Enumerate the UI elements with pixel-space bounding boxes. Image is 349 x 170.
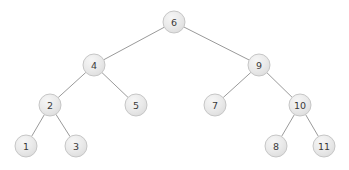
tree-edge <box>306 114 319 136</box>
tree-diagram-canvas: 6492571013811 <box>0 0 349 170</box>
tree-node-circle <box>163 11 185 33</box>
tree-node[interactable]: 1 <box>15 135 37 157</box>
tree-node[interactable]: 10 <box>289 94 311 116</box>
tree-node[interactable]: 4 <box>83 54 105 76</box>
tree-edge <box>58 72 86 97</box>
tree-node[interactable]: 8 <box>265 135 287 157</box>
tree-node[interactable]: 9 <box>248 54 270 76</box>
tree-node[interactable]: 6 <box>163 11 185 33</box>
tree-edge <box>267 73 292 98</box>
tree-node-circle <box>83 54 105 76</box>
tree-node-circle <box>39 94 61 116</box>
tree-node[interactable]: 11 <box>313 135 335 157</box>
tree-node-circle <box>15 135 37 157</box>
tree-node-circle <box>125 94 147 116</box>
tree-edge <box>223 72 251 97</box>
tree-node-circle <box>204 94 226 116</box>
tree-node-circle <box>248 54 270 76</box>
tree-edge <box>104 27 165 60</box>
tree-node-circle <box>265 135 287 157</box>
tree-edge <box>56 114 70 136</box>
tree-node[interactable]: 5 <box>125 94 147 116</box>
tree-node-circle <box>313 135 335 157</box>
tree-node-circle <box>65 135 87 157</box>
tree-node-circle <box>289 94 311 116</box>
tree-edge <box>32 114 45 136</box>
tree-node[interactable]: 3 <box>65 135 87 157</box>
tree-edge <box>184 27 249 60</box>
binary-tree-graphic: 6492571013811 <box>0 0 349 170</box>
tree-node[interactable]: 7 <box>204 94 226 116</box>
tree-edge <box>102 73 128 98</box>
edge-layer <box>32 27 319 137</box>
tree-edge <box>282 114 295 136</box>
node-layer: 6492571013811 <box>15 11 335 157</box>
tree-node[interactable]: 2 <box>39 94 61 116</box>
